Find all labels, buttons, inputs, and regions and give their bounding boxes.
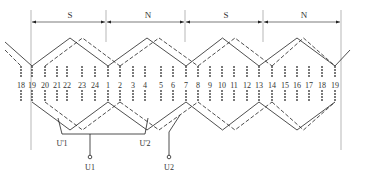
coil-end-top: [272, 38, 335, 66]
coil-end-top: [186, 38, 259, 66]
terminal-u1-icon: [88, 155, 92, 159]
arrow-left-icon: [32, 21, 36, 24]
coil-end-bottom: [272, 102, 335, 130]
slot-number: 21: [53, 81, 61, 90]
slot-number: 19: [28, 81, 36, 90]
terminal-u2-icon: [167, 155, 171, 159]
slot-number: 18: [17, 81, 25, 90]
terminal-label: U2: [164, 163, 174, 172]
labels: U'1U'2U1U2: [56, 139, 174, 172]
slot-number: 2: [118, 81, 122, 90]
slot-number: 22: [63, 81, 71, 90]
slot-number: 18: [318, 81, 326, 90]
coil-end-bottom: [120, 102, 198, 130]
slot-number: 7: [184, 81, 188, 90]
arrow-right-icon: [101, 21, 105, 24]
slot-number: 24: [91, 81, 99, 90]
coil-end-bottom: [259, 102, 335, 130]
slot-number: 17: [305, 81, 313, 90]
slot-number: 15: [281, 81, 289, 90]
slot-markers: 1819202122232412345678910111213141516171…: [17, 66, 339, 102]
slot-number: 13: [255, 81, 263, 90]
junction-label: U'1: [56, 139, 67, 148]
coil-end-top: [32, 38, 108, 66]
coil-end-top: [108, 38, 186, 66]
pole-label: N: [301, 10, 308, 20]
slot-number: 8: [196, 81, 200, 90]
arrow-right-icon: [336, 21, 340, 24]
coil-edge: [5, 50, 21, 66]
series-link: [58, 118, 148, 134]
slot-number: 12: [243, 81, 251, 90]
slot-number: 23: [78, 81, 86, 90]
slot-number: 10: [218, 81, 226, 90]
arrow-left-icon: [186, 21, 190, 24]
coil-end-bottom: [198, 102, 272, 130]
slot-number: 4: [143, 81, 147, 90]
coil-edge: [5, 42, 32, 66]
coil-end-bottom: [45, 102, 120, 130]
coil-end-top: [198, 38, 272, 66]
arrow-right-icon: [180, 21, 184, 24]
coil-end-top: [45, 38, 120, 66]
coil-end-bottom: [186, 102, 259, 130]
arrow-right-icon: [258, 21, 262, 24]
junction-label: U'2: [139, 139, 150, 148]
coil-end-bottom: [32, 102, 108, 130]
pole-dimension-lines: SNSN: [31, 10, 341, 150]
winding-diagram: SNSN 18192021222324123456789101112131415…: [0, 0, 370, 178]
arrow-left-icon: [107, 21, 111, 24]
slot-number: 5: [159, 81, 163, 90]
coil-end-top: [259, 38, 335, 66]
terminal-label: U1: [85, 163, 95, 172]
coil-end-bottom: [108, 102, 186, 130]
arrow-left-icon: [264, 21, 268, 24]
slot-number: 6: [171, 81, 175, 90]
slot-number: 9: [208, 81, 212, 90]
pole-label: N: [145, 10, 152, 20]
slot-number: 19: [331, 81, 339, 90]
slot-number: 11: [230, 81, 238, 90]
slot-number: 20: [41, 81, 49, 90]
slot-number: 1: [106, 81, 110, 90]
lead-connections: [58, 115, 180, 159]
slot-number: 3: [131, 81, 135, 90]
pole-label: S: [67, 10, 72, 20]
slot-number: 14: [268, 81, 276, 90]
pole-label: S: [223, 10, 228, 20]
coil-edge: [335, 50, 350, 66]
coil-end-top: [120, 38, 198, 66]
slot-number: 16: [293, 81, 301, 90]
